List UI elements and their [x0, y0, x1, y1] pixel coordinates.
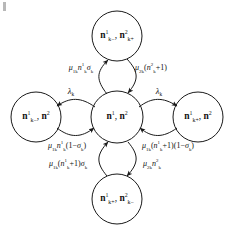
arrow-left-to-center	[57, 128, 94, 136]
arrow-right-to-center	[140, 128, 177, 136]
arrow-center-to-bottom	[127, 142, 136, 176]
arrow-bottom-to-center	[99, 142, 108, 176]
node-circle-right	[173, 92, 223, 142]
diagram-canvas: n1, n2 n1k−, n2k+ n1k+, n2k− n1k−, n2 n1…	[0, 0, 233, 235]
node-circle-left	[11, 92, 61, 142]
node-circle-bottom	[92, 174, 142, 224]
arrow-top-to-center	[127, 59, 136, 93]
arrow-center-to-top	[99, 60, 108, 94]
node-circle-top	[92, 11, 142, 61]
diagram-graphics	[0, 0, 233, 235]
arrow-center-to-right	[139, 99, 177, 107]
node-circle-center	[91, 91, 143, 143]
arrow-center-to-left	[57, 99, 95, 107]
